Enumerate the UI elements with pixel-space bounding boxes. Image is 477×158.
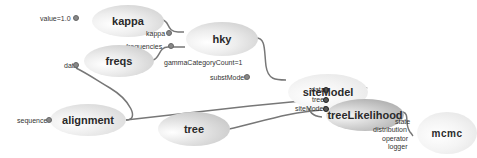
node-label: treeLikelihood [327, 109, 402, 121]
port-label-operator: operator [382, 135, 408, 143]
node-tree[interactable]: tree [158, 112, 230, 146]
node-label: mcmc [432, 128, 463, 139]
port-dot-frequencies[interactable] [168, 43, 174, 49]
port-dot-value[interactable] [73, 15, 79, 21]
port-dot-sequence[interactable] [46, 117, 52, 123]
port-label-substmodel: substModel [210, 74, 246, 82]
node-label: hky [213, 33, 232, 45]
port-label-sequence: sequence [17, 117, 47, 125]
node-label: freqs [106, 55, 133, 67]
port-label-logger: logger [388, 143, 407, 151]
port-dot-substmodel[interactable] [244, 74, 250, 80]
edge-alignment-tl-data [126, 99, 322, 120]
node-label: kappa [112, 15, 144, 27]
node-mcmc[interactable]: mcmc [417, 112, 477, 154]
port-label-gammacategorycount: gammaCategoryCount=1 [164, 59, 242, 67]
port-dot-data[interactable] [73, 62, 79, 68]
node-alignment[interactable]: alignment [50, 104, 126, 136]
port-dot-kappa[interactable] [166, 30, 172, 36]
port-label-distribution: distribution [373, 126, 407, 134]
edge-hky-sitemodel [256, 38, 286, 80]
node-label: alignment [62, 114, 114, 126]
node-freqs[interactable]: freqs [84, 45, 154, 77]
node-label: tree [184, 123, 204, 135]
port-label-value: value=1.0 [40, 15, 71, 23]
edge-kappa-hky [162, 20, 184, 32]
node-hky[interactable]: hky [186, 22, 258, 56]
node-label: siteModel [303, 86, 354, 98]
port-label-kappa: kappa [146, 30, 165, 38]
port-label-tl-sitemodel: siteModel [295, 105, 325, 113]
